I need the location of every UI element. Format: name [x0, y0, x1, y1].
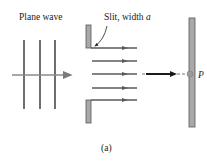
slit-label-text: Slit, width — [104, 12, 146, 22]
diffracted-rays — [91, 46, 137, 102]
slit-pointer-arrow — [95, 26, 107, 46]
ray-arrowhead-icon — [122, 59, 128, 63]
slit-barrier-bottom — [86, 100, 91, 123]
figure-caption: (a) — [101, 143, 112, 154]
plane-wave-label: Plane wave — [19, 12, 63, 22]
central-arrowhead-icon — [170, 71, 177, 77]
slit-width-variable: a — [146, 12, 151, 22]
point-p-label: P — [197, 70, 204, 80]
single-slit-diagram: Plane wave Slit, width a P (a) — [0, 0, 207, 164]
slit-label: Slit, width a — [104, 12, 151, 22]
point-p-marker — [187, 71, 193, 77]
ray-arrowhead-icon — [122, 86, 128, 90]
ray-arrowhead-icon — [122, 98, 128, 102]
ray-arrowhead-icon — [122, 46, 128, 50]
ray-arrowhead-icon — [122, 72, 128, 76]
slit-barrier-top — [86, 25, 91, 48]
